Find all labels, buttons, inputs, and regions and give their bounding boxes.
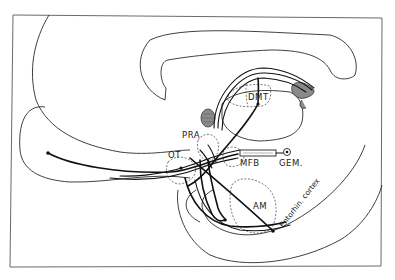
figure-frame [10, 15, 382, 267]
diagram-figure: DMT PRA OT MFB GEM. AM Entorhin. cortex [0, 0, 395, 280]
gem-dot [286, 151, 289, 154]
habenula-tail [300, 100, 306, 108]
diagram-canvas: DMT PRA OT MFB GEM. AM Entorhin. cortex [0, 0, 395, 280]
olfactory-bulb-dot [46, 151, 50, 155]
label-am: AM [253, 201, 267, 211]
tract-to-entorhinal [185, 178, 286, 227]
left-lobe-contour [20, 107, 190, 182]
temporal-dot-1 [223, 218, 226, 221]
ot-dot [179, 166, 182, 169]
dmt-dot [256, 102, 259, 105]
label-mfb: MFB [240, 158, 260, 168]
label-dmt: DMT [248, 92, 269, 102]
brain-outer-contour [32, 15, 190, 153]
label-pra: PRA [182, 130, 200, 140]
tract-to-am [190, 158, 273, 231]
am-dot [271, 229, 275, 233]
tract-to-entorhinal-2 [195, 180, 290, 231]
label-gem: GEM. [279, 158, 303, 168]
upper-structure-outline [140, 31, 356, 100]
label-entorhinal-cortex: Entorhin. cortex [277, 176, 321, 229]
label-ot: OT [168, 150, 181, 160]
